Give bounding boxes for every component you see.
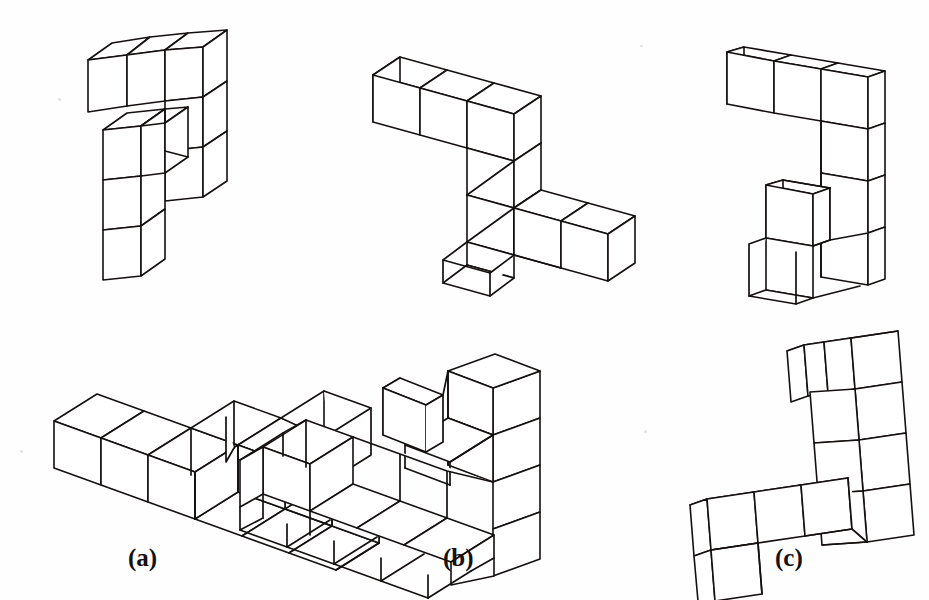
cube-figures-canvas: [0, 0, 929, 600]
paper-speck: [20, 450, 23, 453]
cube-figure-top-b: [373, 57, 635, 296]
paper-speck: [58, 98, 61, 101]
figure-label-a: (a): [128, 544, 157, 572]
figure-board: (a) (b) (c): [0, 0, 929, 600]
figure-label-b: (b): [443, 544, 474, 572]
cube-figure-top-a: [88, 30, 227, 280]
cube-figure-top-c: [727, 47, 885, 304]
cube-figure-bottom-b: [240, 354, 540, 598]
figure-label-c: (c): [775, 544, 803, 572]
paper-speck: [640, 45, 643, 47]
paper-speck: [644, 430, 647, 433]
